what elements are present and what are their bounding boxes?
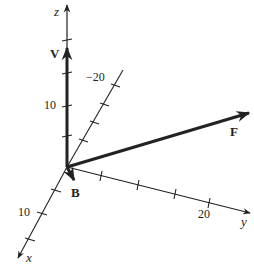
- x-tick-label-10: 10: [18, 205, 30, 219]
- x-tick: [111, 84, 120, 87]
- y-axis-label: y: [239, 214, 247, 229]
- vector-f: F: [67, 113, 249, 167]
- x-axis-label: x: [25, 250, 32, 265]
- y-axis: 20 y: [67, 167, 250, 229]
- vector-b: B: [67, 167, 80, 200]
- vector-b-label: B: [71, 185, 80, 200]
- vector-f-label: F: [230, 124, 238, 139]
- x-neg-tick-label: −20: [86, 70, 105, 84]
- x-tick: [51, 189, 61, 192]
- vector-diagram: z 10 −20 x 10 20 y V F: [0, 0, 254, 265]
- y-tick-label-20: 20: [198, 207, 210, 221]
- z-tick-label-10: 10: [44, 98, 56, 112]
- x-tick: [100, 103, 109, 106]
- x-tick: [90, 121, 99, 124]
- x-tick: [25, 238, 35, 241]
- vector-v-label: V: [50, 46, 60, 61]
- z-axis-label: z: [53, 4, 59, 19]
- x-axis: x 10: [18, 167, 67, 265]
